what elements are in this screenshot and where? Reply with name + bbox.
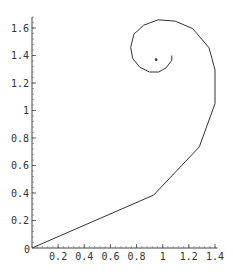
y-tick-label: 1.6	[11, 23, 29, 34]
y-tick-label: 0.2	[11, 215, 29, 226]
spiral-center-point	[155, 58, 158, 61]
y-tick-label: 0.6	[11, 160, 29, 171]
tick-labels: 0.20.40.60.811.21.40.20.40.60.811.21.41.…	[11, 23, 224, 263]
x-tick-label: 0.2	[49, 251, 67, 262]
x-tick-label: 0.8	[128, 251, 146, 262]
x-tick-label: 1.2	[180, 251, 198, 262]
axes	[32, 17, 218, 248]
y-tick-label: 0.4	[11, 188, 29, 199]
spiral-curve	[32, 20, 215, 248]
x-tick-label: 0.6	[101, 251, 119, 262]
x-tick-label: 1.4	[206, 251, 224, 262]
y-tick-label: 1.2	[11, 78, 29, 89]
origin-label: 0	[24, 244, 30, 255]
spiral-chart: 0.20.40.60.811.21.40.20.40.60.811.21.41.…	[0, 0, 233, 272]
x-tick-label: 1	[160, 251, 166, 262]
x-tick-label: 0.4	[75, 251, 93, 262]
y-tick-label: 0.8	[11, 133, 29, 144]
y-tick-label: 1	[23, 105, 29, 116]
y-tick-label: 1.4	[11, 50, 29, 61]
ticks	[32, 17, 215, 248]
